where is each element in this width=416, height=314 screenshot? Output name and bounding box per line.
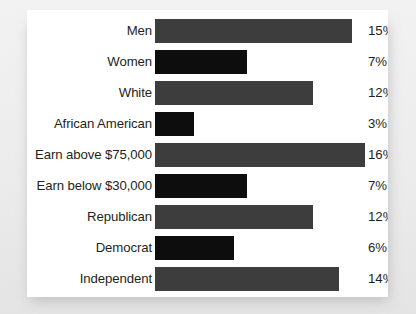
- value-label: 3%: [368, 109, 387, 139]
- bar-row: African American3%: [27, 109, 388, 139]
- bar-row: Earn below $30,0007%: [27, 171, 388, 201]
- chart-card: Men15%Women7%White12%African American3%E…: [27, 10, 388, 297]
- bar-row: Independent14%: [27, 264, 388, 294]
- bar: [155, 236, 234, 260]
- horizontal-bar-chart: Men15%Women7%White12%African American3%E…: [27, 10, 388, 297]
- value-label: 7%: [368, 171, 387, 201]
- value-label: 6%: [368, 233, 387, 263]
- value-label: 12%: [368, 202, 388, 232]
- bar-row: Republican12%: [27, 202, 388, 232]
- bar-track: [155, 19, 365, 43]
- bar-row: Men15%: [27, 16, 388, 46]
- category-label: Men: [27, 16, 152, 46]
- category-label: Earn below $30,000: [27, 171, 152, 201]
- bar: [155, 205, 313, 229]
- value-label: 7%: [368, 47, 387, 77]
- bar: [155, 267, 339, 291]
- bar-track: [155, 267, 365, 291]
- value-label: 14%: [368, 264, 388, 294]
- bar-row: Democrat6%: [27, 233, 388, 263]
- category-label: Independent: [27, 264, 152, 294]
- bar: [155, 81, 313, 105]
- bar-row: Earn above $75,00016%: [27, 140, 388, 170]
- bar-track: [155, 236, 365, 260]
- value-label: 16%: [368, 140, 388, 170]
- bar: [155, 50, 247, 74]
- category-label: Women: [27, 47, 152, 77]
- screenshot-stage: Men15%Women7%White12%African American3%E…: [0, 0, 416, 314]
- bar-track: [155, 143, 365, 167]
- bar: [155, 112, 194, 136]
- category-label: Earn above $75,000: [27, 140, 152, 170]
- category-label: African American: [27, 109, 152, 139]
- category-label: White: [27, 78, 152, 108]
- category-label: Democrat: [27, 233, 152, 263]
- bar-track: [155, 50, 365, 74]
- bar-track: [155, 205, 365, 229]
- value-label: 15%: [368, 16, 388, 46]
- bar-track: [155, 174, 365, 198]
- category-label: Republican: [27, 202, 152, 232]
- bar-track: [155, 112, 365, 136]
- bar-row: Women7%: [27, 47, 388, 77]
- bar-row: White12%: [27, 78, 388, 108]
- bar-track: [155, 81, 365, 105]
- bar: [155, 19, 352, 43]
- bar: [155, 174, 247, 198]
- value-label: 12%: [368, 78, 388, 108]
- bar: [155, 143, 365, 167]
